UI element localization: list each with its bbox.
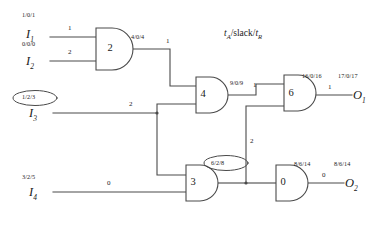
- weight-label-gate2-gate4: 1: [166, 38, 170, 45]
- wire-i3-gate4: [53, 104, 196, 113]
- circuit-diagram: tA/slack/tR 1/0/1 I1 1 0/0/0 I2 2 1/2/3 …: [0, 0, 376, 228]
- output-port-o1: O1: [353, 89, 366, 104]
- input-port-i4: I4: [29, 186, 37, 201]
- wire-junction-dot: [244, 181, 247, 184]
- delay-label-gate0: 8/6/14: [294, 161, 310, 167]
- delay-label-gate6: 16/0/16: [302, 73, 322, 79]
- delay-label-i2: 0/0/0: [22, 41, 35, 47]
- output-port-o2: O2: [345, 177, 358, 192]
- legend-tr-sub: R: [258, 33, 262, 40]
- delay-label-i3: 1/2/3: [22, 94, 35, 100]
- weight-label-gate4-gate6: 1: [253, 82, 257, 89]
- legend-separator: /slack/: [231, 28, 256, 38]
- weight-label-i3: 2: [129, 101, 133, 108]
- legend-notation: tA/slack/tR: [224, 29, 262, 40]
- weight-label-i2: 2: [68, 49, 72, 56]
- delay-label-o1: 17/0/17: [338, 73, 358, 79]
- gate-2-label: 2: [100, 43, 120, 54]
- weight-label-o1: 1: [328, 84, 332, 91]
- delay-label-i1: 1/0/1: [22, 12, 35, 18]
- weight-label-gate3-gate6: 2: [250, 138, 254, 145]
- delay-label-gate3: 6/2/8: [211, 160, 224, 166]
- gate-6-label: 6: [282, 88, 300, 99]
- gate-4-label: 4: [194, 89, 212, 100]
- weight-label-o2: 0: [322, 172, 326, 179]
- delay-label-gate2: 4/0/4: [131, 34, 144, 40]
- wire-junction-dot: [155, 111, 158, 114]
- input-port-i3: I3: [29, 107, 37, 122]
- wire-i3-gate3: [157, 113, 186, 175]
- gate-3-label: 3: [184, 177, 202, 188]
- weight-label-i4: 0: [107, 180, 111, 187]
- wire-gate2-gate4: [128, 49, 196, 86]
- circuit-wires-layer: [0, 0, 376, 228]
- delay-label-i4: 3/2/5: [22, 174, 35, 180]
- delay-label-gate4: 9/0/9: [230, 80, 243, 86]
- input-port-i2: I2: [26, 55, 34, 70]
- gate-0-label: 0: [274, 177, 292, 188]
- delay-label-o2: 8/6/14: [334, 161, 350, 167]
- weight-label-i1: 1: [68, 25, 72, 32]
